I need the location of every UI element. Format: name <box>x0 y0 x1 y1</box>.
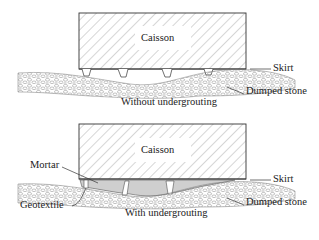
stone-label-bottom: Dumped stone <box>246 197 307 208</box>
caption-bottom: With undergrouting <box>125 208 208 219</box>
skirt-label-top: Skirt <box>273 63 293 74</box>
caisson-label-top: Caisson <box>141 33 174 44</box>
geotextile-label: Geotextile <box>20 200 64 211</box>
mortar-label: Mortar <box>30 160 59 171</box>
skirt-label-bottom: Skirt <box>273 174 293 185</box>
caisson-label-bottom: Caisson <box>141 145 174 156</box>
caption-top: Without undergrouting <box>121 97 217 108</box>
stone-label-top: Dumped stone <box>246 86 307 97</box>
